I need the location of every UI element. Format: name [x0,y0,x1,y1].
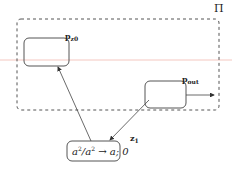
node-pout-subscript: out [188,78,199,85]
node-z1-label: z1 [130,134,139,144]
rule-rhs: a; 0 [110,146,129,157]
edge-z1-to-pz0 [58,67,91,141]
diagram-canvas [0,0,232,170]
node-pz0-label: pz0 [65,32,78,42]
node-pz0-box[interactable] [24,38,69,66]
node-pout-label: pout [182,75,199,85]
membrane-label-pi: Π [214,3,224,14]
rule-arrow: → [98,146,106,157]
rule-mid-exp: 2 [91,145,95,152]
node-z1-subscript: 1 [135,137,139,144]
outer-membrane [17,19,219,110]
node-pout-box[interactable] [145,81,186,108]
rule-text: a2/a2 → a; 0 [72,146,129,157]
node-pz0-subscript: z0 [71,35,79,42]
